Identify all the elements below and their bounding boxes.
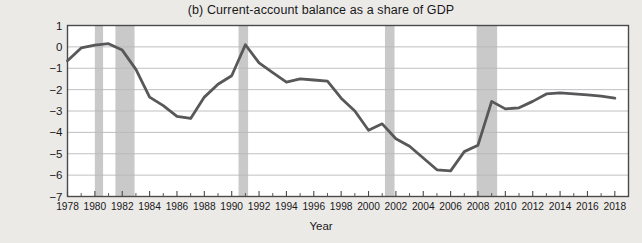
- x-tick-label: 2014: [549, 201, 572, 212]
- x-tick-label: 1982: [111, 201, 134, 212]
- y-tick-label: −4: [49, 126, 63, 138]
- y-tick-label: −5: [49, 148, 62, 160]
- x-tick-label: 2004: [412, 201, 435, 212]
- x-tick-label: 2006: [439, 201, 462, 212]
- x-tick-label: 1990: [220, 201, 243, 212]
- y-tick-labels: 10−1−2−3−4−5−6−7: [49, 20, 63, 203]
- x-tick-label: 1996: [302, 201, 325, 212]
- x-tick-label: 2018: [603, 201, 626, 212]
- x-tick-label: 2012: [521, 201, 544, 212]
- y-tick-label: 0: [56, 41, 62, 53]
- x-major-ticks: [68, 191, 615, 197]
- y-tick-label: −1: [49, 62, 62, 74]
- x-tick-label: 1980: [84, 201, 107, 212]
- x-tick-label: 1978: [56, 201, 79, 212]
- x-tick-label: 1986: [166, 201, 189, 212]
- x-tick-label: 1998: [330, 201, 353, 212]
- y-tick-label: −2: [49, 84, 62, 96]
- x-tick-label: 1992: [248, 201, 271, 212]
- x-tick-label: 2000: [357, 201, 380, 212]
- chart-plot: 10−1−2−3−4−5−6−7 19781980198219841986198…: [0, 0, 642, 243]
- x-tick-label: 2010: [494, 201, 517, 212]
- y-tick-label: 1: [56, 20, 62, 32]
- x-tick-label: 1984: [138, 201, 161, 212]
- figure-panel-b: (b) Current-account balance as a share o…: [0, 0, 642, 243]
- x-tick-labels: 1978198019821984198619881990199219941996…: [56, 201, 626, 212]
- y-tick-label: −6: [49, 169, 62, 181]
- x-tick-label: 1994: [275, 201, 298, 212]
- x-tick-label: 2008: [467, 201, 490, 212]
- x-tick-label: 2016: [576, 201, 599, 212]
- y-tick-label: −3: [49, 105, 62, 117]
- x-tick-label: 2002: [385, 201, 408, 212]
- x-tick-label: 1988: [193, 201, 216, 212]
